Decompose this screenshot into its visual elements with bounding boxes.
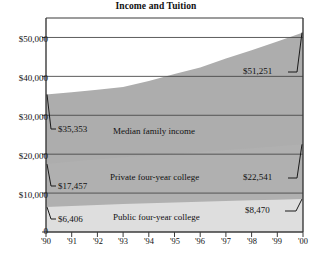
- y-tick-label-50000: $50,000: [19, 34, 48, 44]
- x-tick-label-98: '98: [240, 237, 264, 246]
- x-tick-label-91: '91: [60, 237, 84, 246]
- y-tick-label-10000: $10,000: [19, 190, 48, 200]
- value-label-private-start: $17,457: [58, 181, 87, 191]
- x-tick-label-92: '92: [86, 237, 110, 246]
- x-tick-label-90: '90: [34, 237, 58, 246]
- x-tick-label-93: '93: [111, 237, 135, 246]
- value-label-private-end: $22,541: [243, 172, 272, 182]
- x-tick-label-97: '97: [214, 237, 238, 246]
- x-tick-label-99: '99: [265, 237, 289, 246]
- y-tick-label-40000: $40,000: [19, 73, 48, 83]
- x-tick-label-94: '94: [137, 237, 161, 246]
- series-label-private-four-year-college: Private four-year college: [110, 172, 199, 182]
- x-tick-label-95: '95: [163, 237, 187, 246]
- chart-container: Income and Tuition $50,000 $40,000 $30,0…: [0, 0, 312, 253]
- series-label-public-four-year-college: Public four-year college: [113, 212, 200, 222]
- y-tick-label-0: 0: [44, 226, 49, 236]
- x-tick-label-96: '96: [188, 237, 212, 246]
- x-tick-label-00: '00: [291, 237, 312, 246]
- value-label-income-start: $35,353: [58, 124, 87, 134]
- value-label-income-end: $51,251: [243, 66, 272, 76]
- y-tick-label-20000: $20,000: [19, 151, 48, 161]
- value-label-public-end: $8,470: [245, 205, 270, 215]
- series-label-median-family-income: Median family income: [113, 126, 195, 136]
- value-label-public-start: $6,406: [58, 214, 83, 224]
- y-tick-label-30000: $30,000: [19, 112, 48, 122]
